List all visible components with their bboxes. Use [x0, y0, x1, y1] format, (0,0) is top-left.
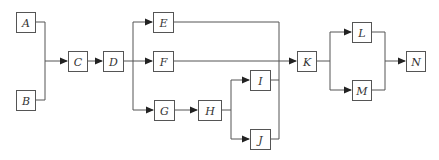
node-e-label: E: [158, 17, 167, 30]
node-j: J: [251, 130, 271, 150]
node-b-label: B: [21, 95, 30, 108]
node-m: M: [353, 81, 372, 101]
node-h-label: H: [204, 105, 215, 118]
node-a: A: [17, 13, 36, 33]
node-b: B: [17, 91, 36, 111]
node-g-label: G: [160, 105, 169, 118]
node-c-label: C: [74, 56, 83, 69]
node-i-label: I: [257, 75, 263, 88]
node-e: E: [154, 13, 174, 33]
edge-k-to-l-m: [316, 32, 351, 90]
node-a-label: A: [21, 17, 30, 30]
node-m-label: M: [355, 85, 368, 98]
edge-h-to-i-j: [221, 80, 249, 139]
node-l: L: [353, 23, 372, 43]
node-g: G: [155, 101, 175, 121]
node-f-label: F: [159, 56, 168, 69]
node-k: K: [298, 52, 317, 72]
node-j-label: J: [256, 134, 263, 147]
node-n: N: [407, 52, 426, 72]
edge-a-b-to-c: [35, 22, 67, 100]
node-h: H: [199, 101, 222, 121]
node-k-label: K: [302, 56, 312, 69]
node-d: D: [104, 52, 124, 72]
node-i: I: [251, 71, 271, 91]
flow-diagram: A B C D E F G H I J K L: [0, 0, 439, 160]
node-c: C: [69, 52, 88, 72]
node-d-label: D: [108, 56, 118, 69]
node-n-label: N: [410, 56, 421, 69]
node-l-label: L: [357, 27, 365, 40]
edge-l-m-to-n: [371, 32, 405, 90]
node-f: F: [154, 52, 174, 72]
edge-d-to-e-f-g: [123, 22, 153, 110]
